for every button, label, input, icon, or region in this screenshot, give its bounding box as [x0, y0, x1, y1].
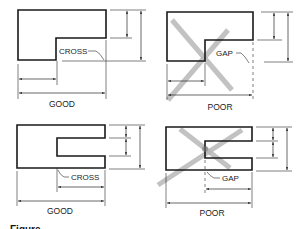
panel-bottom-left-good: CROSS GOOD Figure	[10, 125, 145, 229]
callout-label: CROSS	[59, 47, 87, 56]
figure-caption: Figure	[10, 224, 41, 229]
callout-label: GAP	[216, 49, 233, 58]
c-shape-outline	[17, 125, 105, 168]
callout-label: CROSS	[71, 173, 99, 182]
verdict-label: GOOD	[47, 206, 73, 216]
dimensioning-figure: CROSS GOOD GAP POOR CROS	[0, 0, 302, 229]
verdict-label: POOR	[207, 102, 232, 112]
panel-top-right-poor: GAP POOR	[167, 12, 293, 112]
verdict-label: GOOD	[49, 99, 75, 109]
callout-label: GAP	[222, 174, 239, 183]
panel-bottom-right-poor: GAP POOR	[158, 127, 292, 218]
verdict-label: POOR	[199, 208, 224, 218]
panel-top-left-good: CROSS GOOD	[18, 10, 146, 109]
